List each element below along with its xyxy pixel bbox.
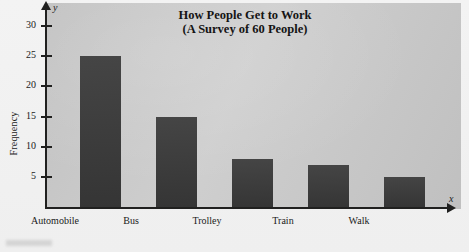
x-axis-label-walk: Walk: [314, 215, 404, 226]
y-axis-tick-label: 5: [14, 170, 36, 181]
page-smudge: [6, 240, 52, 246]
y-axis-title: Frequency: [8, 94, 19, 174]
y-axis-tick-label: 20: [14, 79, 36, 90]
bar-walk: [384, 177, 425, 207]
y-axis-tick-label: 30: [14, 19, 36, 30]
bar-bus: [156, 117, 197, 207]
bar-automobile: [80, 56, 121, 207]
bars-layer: [45, 3, 461, 208]
y-axis-tick-label: 25: [14, 49, 36, 60]
figure-container: How People Get to Work (A Survey of 60 P…: [0, 0, 469, 252]
y-axis-tick-label: 10: [14, 140, 36, 151]
bar-train: [308, 165, 349, 207]
bar-trolley: [232, 159, 273, 207]
y-axis-tick-label: 15: [14, 110, 36, 121]
